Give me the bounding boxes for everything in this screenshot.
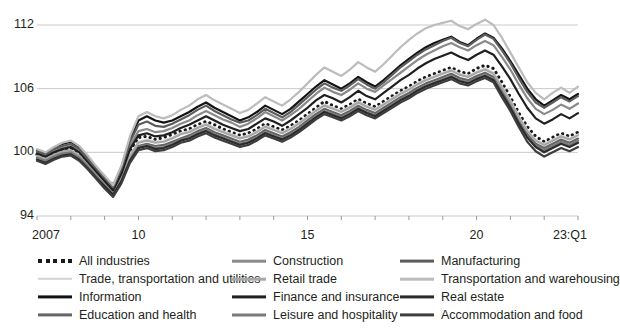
legend-item[interactable]: Construction <box>232 252 399 270</box>
legend-item-label: Accommodation and food <box>441 308 583 322</box>
legend-item[interactable]: Trade, transportation and utilities <box>38 270 261 288</box>
legend-item[interactable]: Leisure and hospitality <box>232 306 399 324</box>
legend-item-label: Transportation and warehousing <box>441 272 620 286</box>
legend-item[interactable]: Information <box>38 288 261 306</box>
legend-column: All industriesTrade, transportation and … <box>38 252 261 324</box>
legend-item[interactable]: Education and health <box>38 306 261 324</box>
legend-item-label: Retail trade <box>273 272 337 286</box>
legend-swatch-icon <box>400 308 434 322</box>
legend-item-label: Leisure and hospitality <box>273 308 397 322</box>
x-axis-tick-label: 23:Q1 <box>540 228 600 242</box>
legend-swatch-icon <box>38 308 72 322</box>
x-axis-tick-label: 2007 <box>16 228 76 242</box>
y-axis-tick-label: 112 <box>0 17 34 31</box>
legend-item[interactable]: Transportation and warehousing <box>400 270 620 288</box>
legend-item-label: Finance and insurance <box>273 290 399 304</box>
chart-legend: All industriesTrade, transportation and … <box>0 252 586 334</box>
line-chart-plot <box>0 0 586 248</box>
legend-item[interactable]: Manufacturing <box>400 252 620 270</box>
legend-swatch-icon <box>232 272 266 286</box>
legend-item[interactable]: Accommodation and food <box>400 306 620 324</box>
legend-swatch-icon <box>400 290 434 304</box>
series-line <box>37 41 578 188</box>
legend-swatch-icon <box>232 254 266 268</box>
series-line <box>37 35 578 188</box>
legend-item-label: Information <box>79 290 142 304</box>
legend-item[interactable]: All industries <box>38 252 261 270</box>
series-line <box>37 33 578 186</box>
legend-swatch-icon <box>38 272 72 286</box>
legend-swatch-icon <box>400 272 434 286</box>
legend-swatch-icon <box>38 254 72 268</box>
legend-swatch-icon <box>232 308 266 322</box>
legend-item[interactable]: Real estate <box>400 288 620 306</box>
legend-item[interactable]: Finance and insurance <box>232 288 399 306</box>
legend-item[interactable]: Retail trade <box>232 270 399 288</box>
legend-column: ManufacturingTransportation and warehous… <box>400 252 620 324</box>
legend-item-label: Construction <box>273 254 343 268</box>
legend-item-label: All industries <box>79 254 150 268</box>
x-axis-tick-label: 15 <box>278 228 338 242</box>
legend-swatch-icon <box>232 290 266 304</box>
legend-item-label: Education and health <box>79 308 196 322</box>
legend-swatch-icon <box>400 254 434 268</box>
legend-swatch-icon <box>38 290 72 304</box>
legend-item-label: Real estate <box>441 290 504 304</box>
y-axis-tick-label: 94 <box>0 208 34 222</box>
legend-column: ConstructionRetail tradeFinance and insu… <box>232 252 399 324</box>
legend-item-label: Manufacturing <box>441 254 520 268</box>
y-axis-tick-label: 106 <box>0 81 34 95</box>
x-axis-tick-label: 20 <box>447 228 507 242</box>
y-axis-tick-label: 100 <box>0 144 34 158</box>
x-axis-tick-label: 10 <box>108 228 168 242</box>
